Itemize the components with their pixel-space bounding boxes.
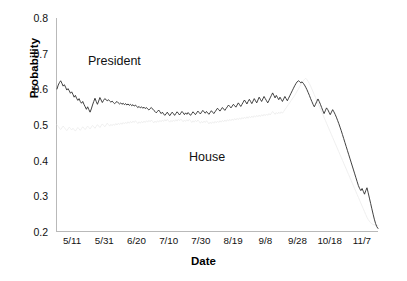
plot-area	[56, 18, 378, 232]
x-axis-title: Date	[0, 255, 407, 267]
y-tick-label: 0.5	[8, 120, 48, 130]
series-label-president: President	[88, 54, 141, 68]
series-canvas	[56, 17, 379, 232]
y-axis-title: Probability	[28, 8, 40, 128]
y-tick-label: 0.4	[8, 156, 48, 166]
y-tick-label: 0.6	[8, 84, 48, 94]
y-tick-label: 0.2	[8, 227, 48, 237]
x-tick-label: 11/7	[340, 236, 384, 246]
series-label-house: House	[189, 150, 225, 164]
chart-figure: Probability Date 0.80.70.60.50.40.30.2 5…	[0, 0, 407, 281]
y-tick-label: 0.8	[8, 13, 48, 23]
y-tick-label: 0.3	[8, 191, 48, 201]
y-tick-label: 0.7	[8, 49, 48, 59]
